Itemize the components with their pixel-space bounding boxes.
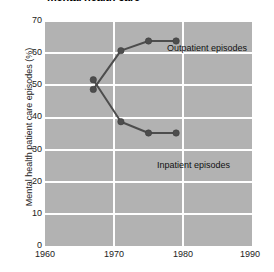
- series-annotation-outpatient: Outpatient episodes: [167, 43, 247, 53]
- data-point: [145, 38, 151, 44]
- series-line-outpatient: [93, 41, 176, 89]
- data-point: [118, 119, 124, 125]
- x-axis-tick-labels: 1960 1970 1980 1990: [45, 249, 252, 263]
- y-tick-label: 70: [4, 16, 42, 25]
- x-tick-label: 1980: [161, 249, 205, 259]
- y-axis-tick-labels: 70 60 50 40 30 20 10 0: [0, 20, 42, 246]
- y-tick-label: 40: [4, 112, 42, 121]
- plot-panel: Outpatient episodes Inpatient episodes: [45, 20, 252, 246]
- y-tick-label: 60: [4, 48, 42, 57]
- series-annotation-inpatient: Inpatient episodes: [157, 160, 230, 170]
- data-point: [118, 47, 124, 53]
- series-line-inpatient: [93, 80, 176, 133]
- data-point: [90, 77, 96, 83]
- data-point: [90, 86, 96, 92]
- x-tick-label: 1970: [92, 249, 136, 259]
- chart-title: mental health care: [47, 0, 267, 3]
- data-point: [145, 130, 151, 136]
- x-tick-label: 1960: [23, 249, 67, 259]
- y-tick-label: 30: [4, 145, 42, 154]
- y-tick-label: 10: [4, 209, 42, 218]
- y-tick-label: 50: [4, 80, 42, 89]
- x-tick-label: 1990: [228, 249, 272, 259]
- chart-figure: mental health care Mental health patient…: [0, 0, 274, 272]
- data-point: [173, 130, 179, 136]
- y-tick-label: 20: [4, 177, 42, 186]
- data-series-layer: [45, 20, 252, 246]
